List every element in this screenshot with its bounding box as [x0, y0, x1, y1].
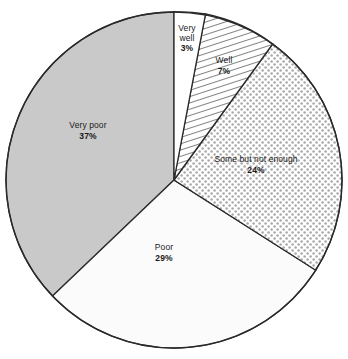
pie-label-very-well-name: Very well — [170, 24, 204, 43]
pie-label-very-well-value: 3% — [165, 44, 209, 54]
pie-label-some-but-not-enough: Some but not enough 24% — [196, 155, 316, 175]
pie-label-very-well: Very well 3% — [165, 24, 209, 54]
pie-label-poor-name: Poor — [134, 243, 194, 253]
pie-label-very-poor-name: Very poor — [48, 121, 128, 131]
pie-label-poor: Poor 29% — [134, 243, 194, 263]
pie-chart: Very well 3% Well 7% Some but not enough… — [0, 0, 348, 359]
pie-label-very-poor-value: 37% — [48, 132, 128, 142]
pie-label-well-name: Well — [203, 56, 245, 66]
pie-label-some-but-not-enough-name: Some but not enough — [196, 155, 316, 165]
pie-label-some-but-not-enough-value: 24% — [196, 166, 316, 176]
pie-chart-svg — [0, 0, 348, 359]
pie-label-well: Well 7% — [203, 56, 245, 76]
pie-label-poor-value: 29% — [134, 254, 194, 264]
pie-label-very-poor: Very poor 37% — [48, 121, 128, 141]
pie-label-well-value: 7% — [203, 67, 245, 77]
